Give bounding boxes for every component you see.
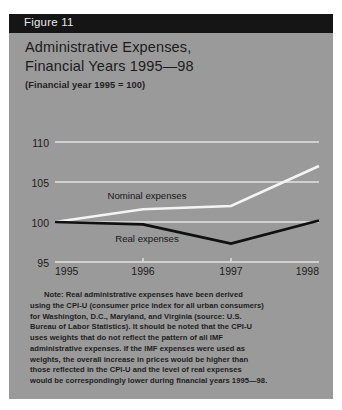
figure-header-bar: Figure 11	[9, 14, 333, 33]
y-tick-label: 105	[31, 177, 49, 189]
figure-title-line-2: Financial Years 1995—98	[25, 58, 194, 74]
y-axis-tick-labels: 11010510095	[31, 137, 49, 269]
x-tick-label: 1998	[296, 265, 320, 277]
x-tick-label: 1996	[131, 265, 155, 277]
note-line: uses weights that do not reflect the pat…	[30, 333, 318, 344]
figure-number-label: Figure 11	[24, 16, 74, 28]
x-tick-label: 1997	[219, 265, 243, 277]
note-line: using the CPI-U (consumer price index fo…	[30, 301, 318, 312]
note-line: for Washington, D.C., Maryland, and Virg…	[30, 312, 318, 323]
x-tick-label: 1995	[55, 265, 79, 277]
figure-panel: Figure 11 Administrative Expenses, Finan…	[9, 14, 333, 399]
series-line-nominal-expenses	[55, 166, 319, 222]
series-annotations: Nominal expensesReal expenses	[108, 190, 187, 243]
figure-subtitle: (Financial year 1995 = 100)	[25, 80, 145, 90]
note-line: those reflected in the CPI-U and the lev…	[30, 365, 318, 376]
note-paragraph: Note: Real administrative expenses have …	[30, 290, 318, 387]
series-annotation: Real expenses	[115, 233, 179, 244]
x-axis-tick-labels: 1995199619971998	[55, 265, 319, 277]
note-line: weights, the overall increase in prices …	[30, 355, 318, 366]
y-tick-label: 100	[31, 217, 49, 229]
gridlines	[55, 142, 319, 262]
note-line: would be correspondingly lower during fi…	[30, 376, 318, 387]
figure-title-line-1: Administrative Expenses,	[25, 39, 191, 55]
y-tick-label: 110	[32, 137, 49, 149]
series-lines	[55, 166, 319, 244]
series-line-real-expenses	[55, 220, 319, 243]
series-annotation: Nominal expenses	[108, 190, 187, 201]
note-line: Bureau of Labor Statistics). It should b…	[30, 322, 318, 333]
y-tick-label: 95	[37, 257, 49, 269]
note-line: Note: Real administrative expenses have …	[30, 290, 318, 301]
line-chart: 11010510095 1995199619971998 Nominal exp…	[9, 104, 333, 286]
note-line: administrative expenses. If the IMF expe…	[30, 344, 318, 355]
chart-svg: 11010510095 1995199619971998 Nominal exp…	[9, 104, 333, 286]
figure-note: Note: Real administrative expenses have …	[30, 290, 318, 387]
